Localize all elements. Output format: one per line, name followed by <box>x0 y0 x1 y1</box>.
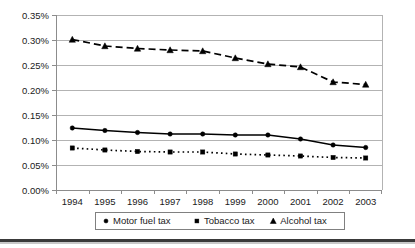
data-point-marker <box>103 128 107 132</box>
footer-divider-light <box>0 242 415 244</box>
x-tick-label: 1997 <box>160 196 181 207</box>
data-point-marker <box>168 150 172 154</box>
x-tick-label: 1994 <box>62 196 83 207</box>
data-point-marker <box>331 143 335 147</box>
data-point-marker <box>298 137 302 141</box>
y-tick-label: 0.20% <box>22 85 49 96</box>
data-point-marker <box>103 148 107 152</box>
data-point-marker <box>201 132 205 136</box>
x-tick-label: 1996 <box>127 196 148 207</box>
y-axis-ticks <box>52 16 56 191</box>
y-tick-label: 0.00% <box>22 185 49 196</box>
x-tick-label: 1998 <box>192 196 213 207</box>
x-tick-label: 2000 <box>257 196 278 207</box>
data-point-marker <box>233 152 237 156</box>
y-axis-tick-labels: 0.00%0.05%0.10%0.15%0.20%0.25%0.30%0.35% <box>22 10 49 196</box>
data-point-marker <box>298 154 302 158</box>
data-point-marker <box>135 149 139 153</box>
legend-label: Motor fuel tax <box>113 215 171 226</box>
x-tick-label: 2003 <box>355 196 376 207</box>
y-tick-label: 0.05% <box>22 160 49 171</box>
x-tick-label: 2002 <box>323 196 344 207</box>
data-point-marker <box>266 153 270 157</box>
y-tick-label: 0.30% <box>22 35 49 46</box>
y-tick-label: 0.25% <box>22 60 49 71</box>
data-point-marker <box>201 150 205 154</box>
data-point-marker <box>168 132 172 136</box>
data-point-marker <box>331 155 335 159</box>
y-tick-label: 0.10% <box>22 135 49 146</box>
data-point-marker <box>70 146 74 150</box>
x-tick-label: 1999 <box>225 196 246 207</box>
chart-legend: Motor fuel taxTobacco taxAlcohol tax <box>96 213 345 230</box>
legend-label: Tobacco tax <box>204 215 255 226</box>
y-tick-label: 0.35% <box>22 10 49 21</box>
legend-label: Alcohol tax <box>280 215 327 226</box>
y-tick-label: 0.15% <box>22 110 49 121</box>
legend-marker-square <box>195 219 199 223</box>
data-point-marker <box>233 133 237 137</box>
data-point-marker <box>70 126 74 130</box>
data-point-marker <box>135 130 139 134</box>
data-point-marker <box>364 156 368 160</box>
chart-figure: 0.00%0.05%0.10%0.15%0.20%0.25%0.30%0.35%… <box>0 0 415 248</box>
plot-area-background <box>56 15 382 190</box>
x-axis-tick-labels: 1994199519961997199819992000200120022003 <box>62 196 377 207</box>
legend-marker-circle <box>104 219 108 223</box>
legend-items: Motor fuel taxTobacco taxAlcohol tax <box>104 215 327 226</box>
x-tick-label: 1995 <box>94 196 115 207</box>
x-tick-label: 2001 <box>290 196 311 207</box>
data-point-marker <box>266 133 270 137</box>
line-chart: 0.00%0.05%0.10%0.15%0.20%0.25%0.30%0.35%… <box>0 0 415 248</box>
data-point-marker <box>364 145 368 149</box>
